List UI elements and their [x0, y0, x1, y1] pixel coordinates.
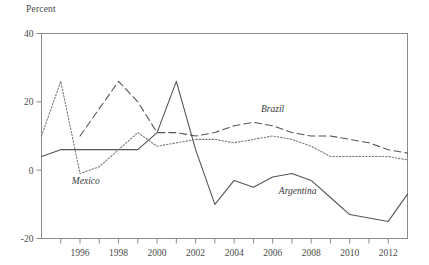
chart-plot-area: -2002040 1996199820002002200420062008201…: [0, 0, 429, 265]
x-tick-label: 2000: [148, 248, 167, 258]
y-axis-ticks: [37, 34, 42, 239]
x-tick-label: 1998: [109, 248, 128, 258]
x-tick-label: 2010: [340, 248, 359, 258]
series-label-mexico: Mexico: [71, 176, 100, 186]
series-path-mexico: [42, 81, 408, 173]
series-line-argentina: [42, 81, 408, 221]
x-tick-label: 2002: [186, 248, 205, 258]
y-tick-label: -20: [21, 234, 34, 244]
series-path-brazil: [80, 81, 407, 153]
series-line-mexico: [42, 81, 408, 173]
series-line-brazil: [80, 81, 407, 153]
y-axis-tick-labels: -2002040: [21, 29, 34, 244]
series-label-argentina: Argentina: [278, 186, 317, 196]
chart-container: Percent -2002040 19961998200020022004200…: [0, 0, 429, 265]
series-label-brazil: Brazil: [261, 104, 285, 114]
x-axis-tick-labels: 199619982000200220042006200820102012: [71, 248, 398, 258]
y-tick-label: 20: [24, 97, 34, 107]
x-tick-label: 2008: [302, 248, 321, 258]
x-tick-label: 2004: [225, 248, 244, 258]
series-path-argentina: [42, 81, 408, 221]
x-tick-label: 2012: [379, 248, 398, 258]
x-tick-label: 1996: [71, 248, 90, 258]
y-tick-label: 40: [24, 29, 34, 39]
x-tick-label: 2006: [263, 248, 282, 258]
x-axis-ticks: [61, 239, 388, 244]
plot-frame: [42, 34, 408, 239]
y-tick-label: 0: [29, 166, 34, 176]
